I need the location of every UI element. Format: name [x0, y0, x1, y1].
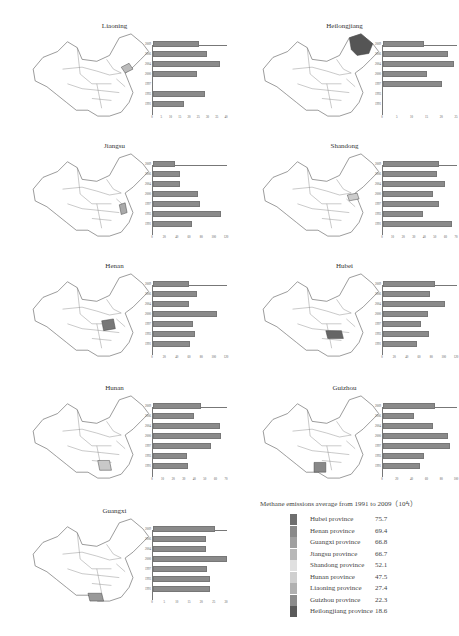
- panel-guizhou: Guizhou200920062004200019971993199102040…: [230, 362, 459, 482]
- china-map-icon: [22, 150, 152, 240]
- panel-heilongjiang: Heilongjiang2009200620042000199719931991…: [230, 0, 459, 120]
- bar-chart: 2009200620042000199719931991020406080100: [382, 403, 459, 475]
- bar: [153, 171, 180, 177]
- panel-guangxi: Guangxi200920062004200019971993199105101…: [0, 485, 229, 605]
- panel-title: Liaoning: [0, 22, 229, 30]
- bar: [153, 413, 194, 419]
- bar: [153, 181, 180, 187]
- bar: [383, 301, 445, 307]
- bar: [383, 423, 433, 429]
- bar: [153, 526, 215, 532]
- bar: [383, 331, 429, 337]
- bar: [153, 281, 189, 287]
- bar: [153, 556, 227, 562]
- legend-item: Henan province69.4: [290, 526, 440, 537]
- bar: [383, 201, 439, 207]
- bar: [153, 331, 195, 337]
- bar: [153, 546, 206, 552]
- panel-title: Hunan: [0, 384, 229, 392]
- bar-chart: 20092006200420001997199319910510152025: [382, 41, 459, 113]
- bar: [383, 341, 417, 347]
- legend-item: Shandong province52.1: [290, 560, 440, 571]
- bar: [153, 71, 197, 77]
- bar: [383, 321, 421, 327]
- legend-item: Heilongjiang province18.6: [290, 606, 440, 617]
- bar: [383, 81, 442, 87]
- legend-title: Methane emissions average from 1991 to 2…: [260, 498, 417, 508]
- legend-item: Jiangsu province66.7: [290, 549, 440, 560]
- bar: [153, 453, 187, 459]
- china-map-icon: [22, 30, 152, 120]
- panel-henan: Henan20092006200420001997199319910204060…: [0, 240, 229, 360]
- panel-shandong: Shandong20092006200420001997199319910102…: [230, 120, 459, 240]
- bar: [153, 161, 175, 167]
- legend-item: Guizhou province22.3: [290, 595, 440, 606]
- bar-chart: 2009200620042000199719931991010203040506…: [152, 403, 230, 475]
- bar: [153, 41, 199, 47]
- china-map-icon: [22, 270, 152, 360]
- bar: [383, 453, 424, 459]
- panel-title: Guangxi: [0, 507, 229, 515]
- bar: [153, 51, 207, 57]
- bar: [153, 576, 210, 582]
- china-map-icon: [22, 392, 152, 482]
- bar: [383, 171, 437, 177]
- bar: [383, 463, 420, 469]
- bar: [153, 191, 198, 197]
- bar: [383, 181, 445, 187]
- panel-title: Shandong: [230, 142, 459, 150]
- bar-chart: 2009200620042000199719931991051015202530: [152, 526, 230, 598]
- bar: [153, 463, 188, 469]
- bar: [153, 403, 201, 409]
- bar: [153, 443, 211, 449]
- bar: [383, 413, 414, 419]
- bar: [383, 311, 428, 317]
- china-map-icon: [252, 270, 382, 360]
- bar: [383, 191, 433, 197]
- bar: [153, 341, 190, 347]
- panel-hunan: Hunan20092006200420001997199319910102030…: [0, 362, 229, 482]
- panel-title: Henan: [0, 262, 229, 270]
- bar-chart: 2009200620042000199719931991020406080100…: [152, 161, 230, 233]
- bar: [383, 291, 430, 297]
- bar-chart: 2009200620042000199719931991010203040506…: [382, 161, 459, 233]
- legend: Methane emissions average from 1991 to 2…: [260, 498, 459, 628]
- legend-item: Hunan province47.5: [290, 572, 440, 583]
- bar: [153, 311, 217, 317]
- china-map-icon: [252, 30, 382, 120]
- bar-chart: 2009200620042000199719931991020406080100…: [152, 281, 230, 353]
- panel-liaoning: Liaoning20092006200420001997199319910510…: [0, 0, 229, 120]
- china-map-icon: [252, 150, 382, 240]
- panel-jiangsu: Jiangsu200920062004200019971993199102040…: [0, 120, 229, 240]
- bar: [383, 61, 454, 67]
- bar: [153, 291, 197, 297]
- panel-title: Guizhou: [230, 384, 459, 392]
- bar: [153, 321, 193, 327]
- china-map-icon: [252, 392, 382, 482]
- bar: [153, 201, 200, 207]
- panel-title: Heilongjiang: [230, 22, 459, 30]
- bar: [153, 221, 192, 227]
- bar: [153, 433, 221, 439]
- bar: [383, 41, 424, 47]
- bar: [383, 403, 435, 409]
- china-map-icon: [22, 515, 152, 605]
- bar: [383, 281, 435, 287]
- bar-chart: 2009200620042000199719931991020406080100…: [382, 281, 459, 353]
- legend-item: Guangxi province66.8: [290, 537, 440, 548]
- bar: [383, 443, 450, 449]
- bar: [383, 51, 448, 57]
- figure: Liaoning20092006200420001997199319910510…: [0, 0, 459, 636]
- bar: [153, 61, 220, 67]
- bar-chart: 2009200620042000199719931991051015202530…: [152, 41, 230, 113]
- panel-title: Hubei: [230, 262, 459, 270]
- bar: [153, 423, 220, 429]
- panel-hubei: Hubei20092006200420001997199319910204060…: [230, 240, 459, 360]
- legend-item: Hubei province75.7: [290, 514, 440, 525]
- bar: [153, 586, 210, 592]
- bar: [383, 211, 423, 217]
- bar: [153, 566, 207, 572]
- bar: [383, 433, 448, 439]
- bar: [153, 301, 189, 307]
- bar: [383, 71, 427, 77]
